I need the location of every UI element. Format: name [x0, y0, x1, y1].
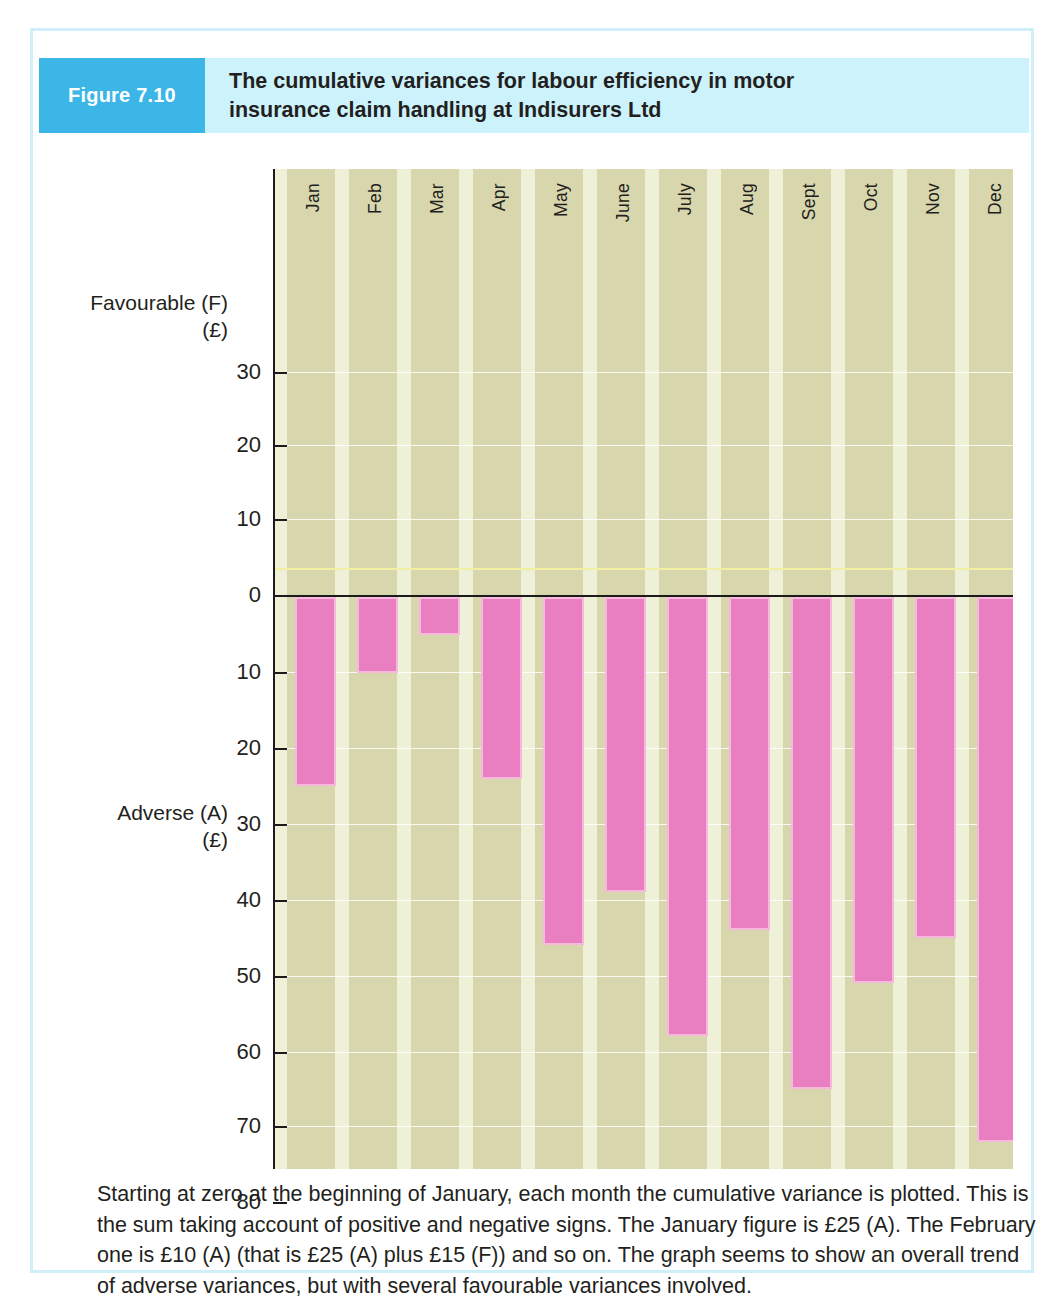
month-label-aug: Aug	[737, 183, 758, 215]
bar-jan[interactable]	[295, 597, 336, 786]
y-tick-label-group: 30 20 10 0 10 20 30 40 50 60 70 80	[183, 169, 261, 1169]
month-band	[411, 169, 459, 1169]
y-tick	[273, 824, 287, 826]
gridline	[273, 976, 1013, 977]
y-tick-label-20f: 20	[201, 432, 261, 458]
y-tick-label-60a: 60	[201, 1039, 261, 1065]
figure-number-badge: Figure 7.10	[39, 58, 205, 133]
gridline	[273, 372, 1013, 373]
bar-aug[interactable]	[729, 597, 770, 930]
bar-may[interactable]	[543, 597, 584, 945]
bar-nov[interactable]	[915, 597, 956, 938]
y-tick-label-20a: 20	[201, 735, 261, 761]
y-tick	[273, 519, 287, 521]
y-tick	[273, 445, 287, 447]
month-label-oct: Oct	[861, 183, 882, 211]
month-label-mar: Mar	[427, 183, 448, 214]
y-tick-label-40a: 40	[201, 887, 261, 913]
month-label-dec: Dec	[985, 183, 1006, 215]
month-label-july: July	[675, 183, 696, 215]
y-tick	[273, 900, 287, 902]
gridline	[273, 900, 1013, 901]
bar-june[interactable]	[605, 597, 646, 892]
gridline	[273, 445, 1013, 446]
y-tick	[273, 595, 287, 597]
gridline	[273, 1052, 1013, 1053]
month-label-may: May	[551, 183, 572, 217]
y-tick	[273, 976, 287, 978]
y-tick	[273, 748, 287, 750]
chart-area: Favourable (F) (£) Adverse (A) (£)	[33, 141, 1031, 1171]
y-tick-label-30a: 30	[201, 811, 261, 837]
bar-dec[interactable]	[977, 597, 1013, 1142]
figure-caption: Starting at zero at the beginning of Jan…	[97, 1179, 1042, 1300]
y-tick	[273, 1126, 287, 1128]
bar-sept[interactable]	[791, 597, 832, 1089]
bar-july[interactable]	[667, 597, 708, 1036]
month-label-sept: Sept	[799, 183, 820, 220]
plot-area: Jan Feb Mar Apr May June July Aug Sept O…	[273, 169, 1013, 1169]
page-top-edge	[0, 0, 1064, 22]
y-tick	[273, 372, 287, 374]
y-axis-line	[273, 169, 275, 1169]
y-tick-label-0: 0	[201, 582, 261, 608]
y-tick	[273, 672, 287, 674]
month-label-june: June	[613, 183, 634, 222]
gridline	[273, 1126, 1013, 1127]
bar-mar[interactable]	[419, 597, 460, 635]
figure-header-banner: Figure 7.10 The cumulative variances for…	[39, 58, 1029, 133]
y-tick-label-10f: 10	[201, 506, 261, 532]
bar-apr[interactable]	[481, 597, 522, 779]
gridline	[273, 519, 1013, 520]
month-label-feb: Feb	[365, 183, 386, 214]
figure-frame: Figure 7.10 The cumulative variances for…	[30, 28, 1034, 1273]
figure-title: The cumulative variances for labour effi…	[205, 58, 1029, 133]
y-tick-label-30f: 30	[201, 359, 261, 385]
trend-line	[273, 568, 1013, 570]
y-tick-label-10a: 10	[201, 659, 261, 685]
month-label-jan: Jan	[303, 183, 324, 212]
y-tick-label-70a: 70	[201, 1113, 261, 1139]
y-tick	[273, 1052, 287, 1054]
bar-oct[interactable]	[853, 597, 894, 983]
y-tick-label-50a: 50	[201, 963, 261, 989]
month-label-nov: Nov	[923, 183, 944, 215]
month-label-apr: Apr	[489, 183, 510, 211]
bar-feb[interactable]	[357, 597, 398, 673]
